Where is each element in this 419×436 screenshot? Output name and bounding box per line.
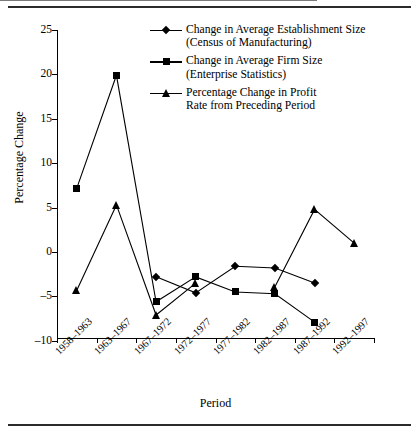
zero-reference-line (0, 0, 317, 1)
x-tick-mark (176, 338, 177, 343)
y-tick-label: 25 (18, 24, 52, 35)
triangle-marker-icon (191, 279, 199, 287)
x-tick-mark (374, 338, 375, 343)
y-tick-label: 10 (18, 157, 52, 168)
x-tick-label: 1958–1963 (53, 316, 94, 357)
y-tick-mark (52, 74, 57, 75)
triangle-marker-icon (162, 89, 170, 97)
y-tick-mark (52, 208, 57, 209)
legend-label-line1: Percentage Change in Profit (186, 86, 316, 99)
top-rule (8, 6, 411, 8)
x-tick-label: 1992–1997 (330, 316, 371, 357)
y-tick-mark (52, 296, 57, 297)
y-tick-label: –5 (18, 290, 52, 301)
x-tick-label: 1972–1977 (172, 316, 213, 357)
square-marker-icon (113, 72, 120, 79)
diamond-marker-icon (191, 289, 199, 297)
triangle-marker-icon (350, 239, 358, 247)
square-marker-icon (153, 298, 160, 305)
legend-item: Change in Average Firm Size(Enterprise S… (148, 54, 365, 80)
legend-label-line2: (Census of Manufacturing) (186, 36, 365, 49)
legend-label: Change in Average Firm Size(Enterprise S… (186, 54, 322, 80)
chart-legend: Change in Average Establishment Size(Cen… (148, 23, 365, 117)
legend-label-line2: Rate from Preceding Period (186, 99, 316, 112)
square-marker-icon (73, 185, 80, 192)
diamond-marker-icon (310, 279, 318, 287)
triangle-marker-icon (152, 311, 160, 319)
square-marker-icon (163, 58, 170, 65)
y-tick-mark (52, 119, 57, 120)
y-tick-label: –10 (18, 335, 52, 346)
diamond-marker-icon (271, 264, 279, 272)
legend-key (148, 87, 186, 100)
legend-label: Percentage Change in ProfitRate from Pre… (186, 86, 316, 112)
diamond-marker-icon (231, 262, 239, 270)
diamond-marker-icon (162, 26, 170, 34)
legend-item: Percentage Change in ProfitRate from Pre… (148, 86, 365, 112)
square-marker-icon (232, 288, 239, 295)
y-tick-mark (52, 252, 57, 253)
legend-key (148, 24, 186, 37)
legend-item: Change in Average Establishment Size(Cen… (148, 23, 365, 49)
y-tick-label: 15 (18, 113, 52, 124)
y-tick-label: 20 (18, 68, 52, 79)
y-axis-line (57, 30, 58, 338)
legend-label-line1: Change in Average Establishment Size (186, 23, 365, 36)
chart-figure: Percentage Change Period 2520151050–5–10… (0, 0, 419, 436)
y-tick-label: 0 (18, 246, 52, 257)
legend-label-line1: Change in Average Firm Size (186, 54, 322, 67)
square-marker-icon (271, 290, 278, 297)
triangle-marker-icon (310, 205, 318, 213)
y-tick-mark (52, 163, 57, 164)
bottom-rule (8, 424, 411, 426)
square-marker-icon (311, 319, 318, 326)
triangle-marker-icon (72, 286, 80, 294)
diamond-marker-icon (152, 273, 160, 281)
triangle-marker-icon (112, 201, 120, 209)
legend-key (148, 55, 186, 68)
x-tick-label: 1982–1987 (251, 316, 292, 357)
x-tick-mark (295, 338, 296, 343)
legend-label: Change in Average Establishment Size(Cen… (186, 23, 365, 49)
x-tick-label: 1977–1982 (211, 316, 252, 357)
x-tick-label: 1967–1972 (132, 316, 173, 357)
triangle-marker-icon (270, 283, 278, 291)
x-axis-title: Period (57, 396, 374, 411)
y-tick-label: 5 (18, 202, 52, 213)
y-tick-mark (52, 30, 57, 31)
x-tick-label: 1963–1967 (92, 316, 133, 357)
legend-label-line2: (Enterprise Statistics) (186, 68, 322, 81)
